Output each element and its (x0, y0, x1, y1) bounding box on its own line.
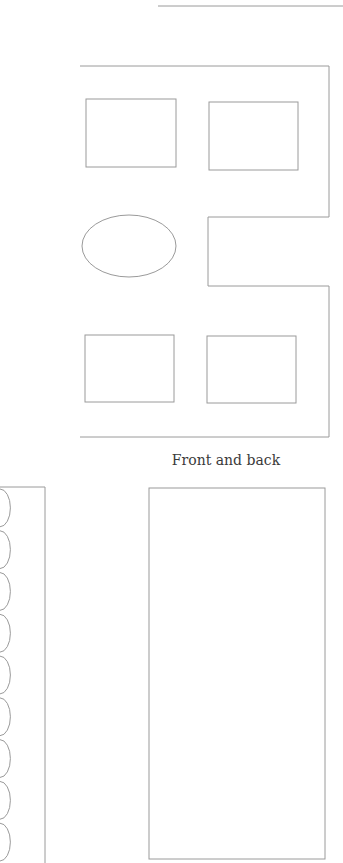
top-right-rect (209, 102, 298, 170)
scallop (0, 698, 10, 736)
scallop (0, 823, 10, 861)
bottom-right-rect (207, 336, 296, 403)
scallop (0, 740, 10, 778)
scallop (0, 489, 10, 527)
tall-rect (149, 488, 325, 859)
oval-cutout (82, 215, 176, 277)
scallop (0, 781, 10, 819)
outer-frame-with-notch (80, 66, 329, 437)
scallop (0, 656, 10, 694)
bottom-left-rect (85, 335, 174, 402)
figure-caption: Front and back (126, 452, 326, 468)
scalloped-strip (0, 487, 45, 863)
scallop (0, 531, 10, 569)
scallop (0, 614, 10, 652)
scallop (0, 573, 10, 611)
top-left-rect (86, 99, 176, 167)
diagram-canvas (0, 0, 343, 863)
